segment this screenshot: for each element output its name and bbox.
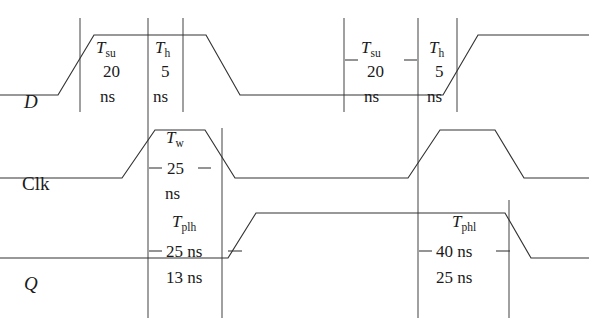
annotation-tphl-subscript: phl: [461, 221, 476, 234]
annotation-th-1-value: 5: [161, 62, 170, 81]
annotation-th-1-symbol: Th: [155, 38, 170, 59]
annotation-tw-symbol: Tw: [166, 128, 184, 149]
annotation-tsu-1-value: 20: [103, 62, 120, 81]
annotation-tw-value: 25: [167, 159, 184, 178]
annotation-tsu-2-unit: ns: [364, 87, 379, 106]
signal-label-q: Q: [24, 273, 38, 294]
annotation-tplh-value-1: 25 ns: [166, 242, 202, 261]
annotation-tphl-value-2: 25 ns: [436, 268, 472, 287]
annotation-tsu-2-subscript: su: [370, 47, 380, 59]
annotation-th-2-unit: ns: [427, 87, 442, 106]
annotation-th-1-unit: ns: [153, 87, 168, 106]
annotation-th-2: Th 5 ns: [427, 38, 444, 106]
annotation-tsu-2-value: 20: [367, 62, 384, 81]
annotation-th-2-value: 5: [435, 62, 444, 81]
annotation-tphl: Tphl 40 ns 25 ns: [419, 212, 510, 287]
annotation-tplh-value-2: 13 ns: [166, 268, 202, 287]
signal-label-clk: Clk: [22, 173, 50, 194]
annotation-tplh: Tplh 25 ns 13 ns: [149, 212, 242, 287]
annotation-tsu-1-symbol: Tsu: [96, 38, 116, 59]
annotation-tsu-1-subscript: su: [105, 47, 115, 59]
annotation-tphl-symbol: Tphl: [452, 212, 476, 234]
annotation-tsu-1-unit: ns: [100, 87, 115, 106]
waveform-d: [0, 35, 589, 95]
annotation-th-2-subscript: h: [438, 47, 444, 59]
annotation-tsu-2-symbol: Tsu: [361, 38, 381, 59]
annotation-tsu-2: Tsu 20 ns: [345, 38, 417, 106]
annotation-tw: Tw 25 ns: [149, 128, 211, 203]
timing-diagram-canvas: D Clk Q Tsu 20 ns Th 5 ns Tsu 20: [0, 0, 589, 318]
annotation-tplh-symbol: Tplh: [172, 212, 196, 234]
waveform-clk: [0, 130, 589, 178]
annotation-tsu-1: Tsu 20 ns: [96, 38, 120, 106]
annotation-tphl-value-1: 40 ns: [436, 242, 472, 261]
waveform-d-trace: [0, 35, 589, 95]
waveform-clk-trace: [0, 130, 589, 178]
signal-label-d: D: [23, 91, 38, 112]
annotation-th-2-symbol: Th: [429, 38, 444, 59]
annotation-th-1-subscript: h: [164, 47, 170, 59]
timing-diagram-figure: D Clk Q Tsu 20 ns Th 5 ns Tsu 20: [0, 0, 589, 318]
annotation-th-1: Th 5 ns: [153, 38, 170, 106]
annotation-tw-subscript: w: [175, 137, 184, 149]
annotation-tplh-subscript: plh: [181, 221, 196, 234]
annotation-tw-unit: ns: [165, 184, 180, 203]
